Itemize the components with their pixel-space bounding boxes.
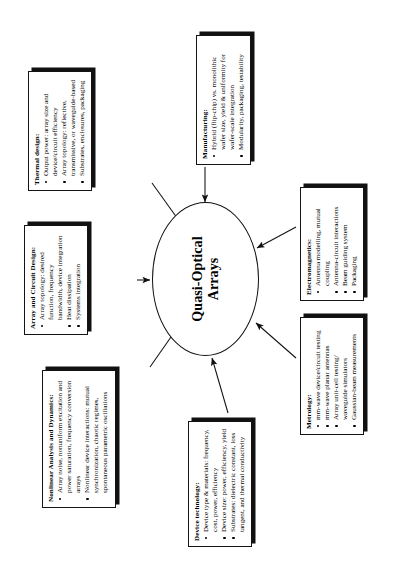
list-item: Antenna modelling, mutual coupling [314, 193, 332, 286]
node-title: Thermal design: [33, 77, 42, 185]
node-title: Electromagnetics: [305, 193, 314, 295]
node-title: Device technology: [193, 427, 202, 541]
center-node-label-line1: Quasi-Optical [190, 236, 205, 321]
list-item: Hybrid (flip-chip) vs. monolithic [210, 41, 219, 150]
node-nonlinear-analysis-and-dynamics[interactable]: Nonlinear Analysis and Dynamics: Array n… [42, 370, 116, 508]
list-item: Output power: array size and device/circ… [42, 77, 60, 176]
node-thermal-design[interactable]: Thermal design: Output power: array size… [28, 71, 92, 191]
list-item: Packaging [350, 193, 359, 286]
list-item: Array unit-cell testing/ waveguide simul… [332, 323, 350, 420]
node-item-list: mm-wave device/circuit testing mm-wave p… [314, 323, 359, 429]
list-item: Array noise, nonuniform excitation and p… [56, 376, 83, 493]
node-title: Manufacturing: [201, 41, 210, 159]
center-node-label-line2: Arrays [206, 258, 221, 301]
list-item: Beam guiding system [341, 193, 350, 286]
list-item: Modularity, packaging, testability [237, 41, 246, 150]
node-title: Nonlinear Analysis and Dynamics: [47, 376, 56, 502]
list-item: Device size: power, efficiency, yield [220, 427, 229, 532]
list-item: wafer size, yield & uniformity for wafer… [219, 41, 237, 150]
list-item: mm-wave device/circuit testing [314, 323, 323, 420]
node-electromagnetics[interactable]: Electromagnetics: Antenna modelling, mut… [300, 187, 364, 301]
arrow-electromagnetics-to-center [257, 227, 296, 248]
list-item: Array topology: reflective, transmissive… [60, 77, 78, 176]
node-item-list: Output power: array size and device/circ… [42, 77, 87, 185]
node-item-list: Antenna modelling, mutual coupling Anten… [314, 193, 359, 295]
diagram-canvas: Nonlinear Analysis and Dynamics: Array n… [0, 0, 409, 563]
node-device-technology[interactable]: Device technology: Device type & materia… [188, 421, 252, 547]
center-node-label: Quasi-Optical Arrays [190, 236, 221, 321]
list-item: Heat dissipation [65, 231, 74, 320]
list-item: Gaussian-beam measurements [350, 323, 359, 420]
list-item: Antenna-circuit interactions [332, 193, 341, 286]
node-metrology[interactable]: Metrology: mm-wave device/circuit testin… [300, 317, 364, 435]
list-item: Substrates: dielectric constant, loss ta… [229, 427, 247, 532]
list-item: Array topology: desired function, freque… [38, 231, 65, 320]
center-node-quasi-optical-arrays[interactable]: Quasi-Optical Arrays [152, 202, 259, 356]
arrow-device-to-center [212, 358, 228, 413]
list-item: Substrates, enclosures, packaging [78, 77, 87, 176]
node-title: Array and Circuit Design: [29, 231, 38, 329]
node-item-list: Hybrid (flip-chip) vs. monolithic wafer … [210, 41, 246, 159]
node-item-list: Array topology: desired function, freque… [38, 231, 83, 329]
node-item-list: Device type & materials: frequency, cost… [202, 427, 247, 541]
node-item-list: Array noise, nonuniform excitation and p… [56, 376, 110, 502]
node-manufacturing[interactable]: Manufacturing: Hybrid (flip-chip) vs. mo… [196, 35, 251, 165]
list-item: Device type & materials: frequency, cost… [202, 427, 220, 532]
list-item: Systems integration [74, 231, 83, 320]
list-item: mm-wave planar antennas [323, 323, 332, 420]
arrow-metrology-to-center [256, 323, 296, 358]
list-item: Nonlinear device interactions: mutual sy… [83, 376, 110, 493]
node-array-and-circuit-design[interactable]: Array and Circuit Design: Array topology… [24, 225, 88, 335]
node-title: Metrology: [305, 323, 314, 429]
